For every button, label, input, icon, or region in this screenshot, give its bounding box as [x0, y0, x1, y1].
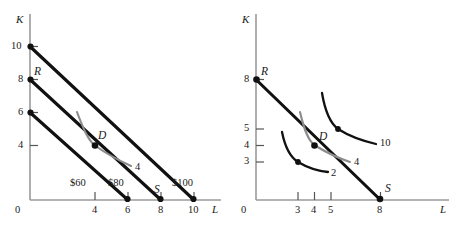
isocost-100-l-intercept-dot	[190, 196, 196, 202]
isocost-60-l-intercept-dot	[124, 196, 130, 202]
isocost-80-k-intercept-dot-R	[27, 76, 33, 82]
right-isocost-k-intercept-dot-R	[253, 76, 260, 83]
isoquant-curve-10	[322, 93, 376, 144]
right-chart-panel: K L 0 8 5 4 3 3 4 5 8 R D S 2 4 10	[228, 0, 456, 230]
isoquant-curve-4	[300, 112, 350, 162]
tangency-point-D-dot	[92, 142, 99, 149]
right-isocost-l-intercept-dot-S	[377, 196, 384, 203]
right-chart-svg	[228, 0, 456, 230]
left-chart-svg	[0, 0, 228, 230]
isocost-line-100	[30, 47, 194, 201]
isocost-80-l-intercept-dot-S	[157, 196, 163, 202]
isoquant-10-point-dot	[335, 126, 341, 132]
isoquant-curve-4	[77, 112, 131, 166]
left-chart-panel: K L 0 10 8 6 4 4 6 8 10 R D S 4 $60 $80 …	[0, 0, 228, 230]
isocost-line-80	[30, 80, 161, 201]
isoquant-2-point-dot	[295, 159, 301, 165]
isoquant-curve-2	[282, 132, 328, 172]
economics-figure: K L 0 10 8 6 4 4 6 8 10 R D S 4 $60 $80 …	[0, 0, 456, 230]
isocost-100-k-intercept-dot	[27, 43, 33, 49]
right-tangency-point-D-dot	[311, 142, 318, 149]
isocost-60-k-intercept-dot	[27, 109, 33, 115]
